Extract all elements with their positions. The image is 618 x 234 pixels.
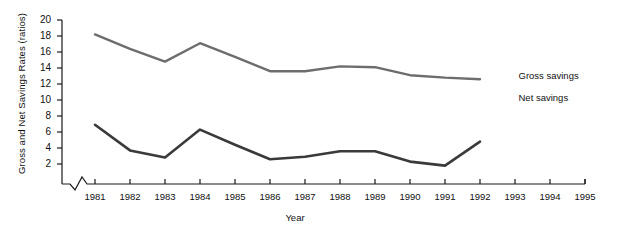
x-axis-line-with-break	[62, 177, 585, 190]
axes	[57, 20, 585, 190]
data-series	[95, 34, 480, 165]
savings-rates-line-chart: Gross and Net Savings Rates (ratios) Yea…	[0, 0, 618, 234]
series-line-net-savings	[95, 125, 480, 166]
plot-area	[0, 0, 618, 234]
series-line-gross-savings	[95, 34, 480, 79]
